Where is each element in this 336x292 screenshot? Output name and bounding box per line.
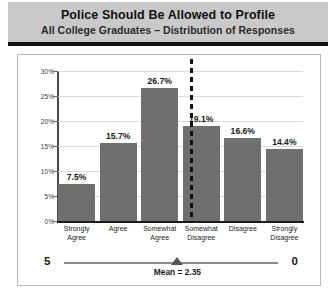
agreement-scale: 5 0 Mean = 2.35 (40, 255, 302, 283)
bar[interactable] (224, 138, 261, 221)
bar-value-label: 16.6% (212, 126, 274, 136)
bar-value-label: 14.4% (253, 137, 315, 147)
bar-value-label: 15.7% (87, 131, 149, 141)
bar-slot[interactable]: 14.4% (266, 71, 303, 221)
page-subtitle: All College Graduates – Distribution of … (41, 24, 295, 36)
plot-area: 7.5%15.7%26.7%19.1%16.6%14.4% (58, 71, 303, 221)
bar[interactable] (183, 126, 220, 222)
bar-slot[interactable]: 15.7% (100, 71, 137, 221)
x-axis-category-label: Somewhat Agree (141, 225, 178, 243)
bar-series: 7.5%15.7%26.7%19.1%16.6%14.4% (58, 71, 303, 221)
bar[interactable] (58, 184, 95, 222)
x-axis-category-label: Strongly Agree (58, 225, 95, 243)
bar-value-label: 19.1% (170, 114, 232, 124)
page-title: Police Should Be Allowed to Profile (61, 8, 275, 22)
y-axis: 0%5%10%15%20%25%30% (18, 55, 54, 285)
mean-marker-icon (171, 257, 183, 265)
bar-slot[interactable]: 7.5% (58, 71, 95, 221)
bar-slot[interactable]: 19.1% (183, 71, 220, 221)
chart-frame: 0%5%10%15%20%25%30% 7.5%15.7%26.7%19.1%1… (17, 54, 321, 286)
scale-right-end: 0 (292, 255, 298, 267)
x-axis-category-label: Disagree (224, 225, 261, 243)
x-axis-category-label: Somewhat Disagree (183, 225, 220, 243)
x-axis-category-label: Agree (100, 225, 137, 243)
chart-poster: Police Should Be Allowed to Profile All … (0, 0, 336, 292)
midpoint-divider-icon (190, 59, 193, 223)
scale-left-end: 5 (44, 255, 50, 267)
bar-slot[interactable]: 26.7% (141, 71, 178, 221)
x-axis-category-label: Strongly Disagree (266, 225, 303, 243)
x-axis-categories: Strongly AgreeAgreeSomewhat AgreeSomewha… (58, 225, 303, 243)
x-axis-line (57, 221, 304, 223)
bar[interactable] (141, 88, 178, 222)
bar[interactable] (266, 149, 303, 221)
chart-header: Police Should Be Allowed to Profile All … (8, 2, 328, 46)
mean-label: Mean = 2.35 (132, 267, 222, 277)
bar[interactable] (100, 143, 137, 222)
bar-value-label: 26.7% (129, 76, 191, 86)
bar-value-label: 7.5% (46, 172, 108, 182)
